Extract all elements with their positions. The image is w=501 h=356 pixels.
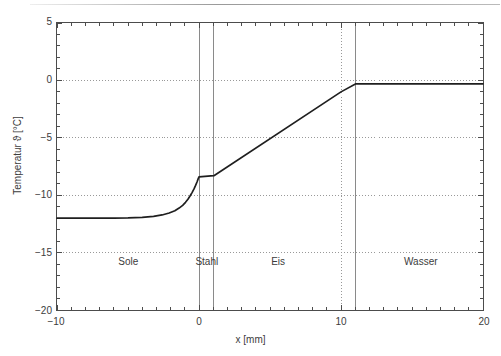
data-series-group bbox=[57, 84, 483, 218]
region-label: Eis bbox=[271, 256, 285, 267]
region-label: Stahl bbox=[195, 256, 218, 267]
figure-chart-temperature-profile: 5 0 −5 −10 −15 −20 −10 0 10 20 x [mm] Te… bbox=[0, 0, 501, 356]
x-tick-label: 10 bbox=[321, 317, 361, 327]
vertical-gridlines bbox=[199, 23, 341, 310]
x-axis-title: x [mm] bbox=[0, 334, 501, 345]
series-line bbox=[57, 84, 483, 218]
y-axis-title: Temperatur ϑ [°C] bbox=[12, 76, 23, 236]
region-label: Sole bbox=[118, 256, 138, 267]
x-tick-label: 20 bbox=[464, 317, 501, 327]
x-tick-label: −10 bbox=[36, 317, 76, 327]
x-tick-label: 0 bbox=[179, 317, 219, 327]
plot-area: SoleStahlEisWasser bbox=[56, 22, 484, 311]
region-label: Wasser bbox=[404, 256, 438, 267]
horizontal-gridlines bbox=[57, 80, 483, 252]
